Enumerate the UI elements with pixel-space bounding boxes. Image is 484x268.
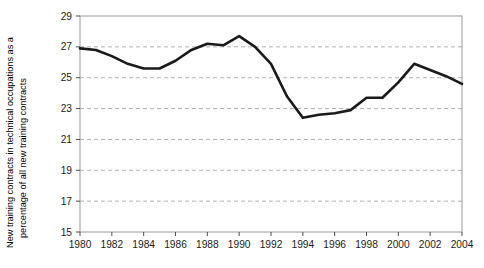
x-tick-label-1990: 1990	[228, 239, 251, 250]
x-tick-label-1996: 1996	[323, 239, 346, 250]
y-tick-label-19: 19	[61, 165, 73, 176]
chart-container: 1517192123252729 19801982198419861988199…	[0, 0, 484, 268]
x-tick-label-2000: 2000	[387, 239, 410, 250]
x-tick-label-1988: 1988	[196, 239, 219, 250]
line-chart: 1517192123252729 19801982198419861988199…	[0, 0, 484, 268]
y-axis-title-line-1: New training contracts in technical occu…	[5, 36, 15, 248]
y-tick-label-15: 15	[61, 227, 73, 238]
x-tick-label-2004: 2004	[451, 239, 474, 250]
x-tick-label-1986: 1986	[164, 239, 187, 250]
y-tick-label-17: 17	[61, 196, 73, 207]
x-tick-label-1998: 1998	[355, 239, 378, 250]
x-tick-label-1994: 1994	[291, 239, 314, 250]
x-tick-label-1992: 1992	[260, 239, 283, 250]
x-tick-label-1980: 1980	[69, 239, 92, 250]
x-tick-label-2002: 2002	[419, 239, 442, 250]
y-tick-label-25: 25	[61, 72, 73, 83]
y-tick-label-21: 21	[61, 134, 73, 145]
x-tick-label-1982: 1982	[100, 239, 123, 250]
x-tick-label-1984: 1984	[132, 239, 155, 250]
y-tick-label-27: 27	[61, 41, 73, 52]
y-tick-label-23: 23	[61, 103, 73, 114]
y-axis-title-line-2: percentage of all new training contracts	[18, 78, 28, 238]
chart-background	[0, 0, 484, 268]
y-tick-label-29: 29	[61, 11, 73, 22]
